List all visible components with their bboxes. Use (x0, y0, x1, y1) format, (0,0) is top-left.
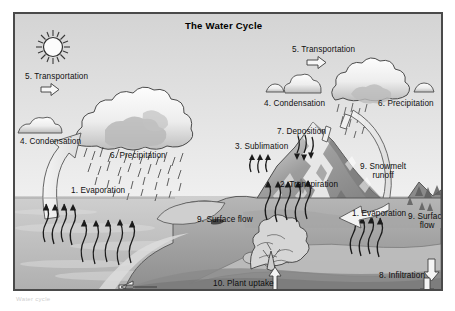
label-transportation-left: 5. Transportation (25, 72, 88, 81)
sublimation-arrowheads (249, 154, 271, 160)
label-transpiration: 2. Transpiration (280, 180, 338, 189)
label-condensation-right: 4. Condensation (264, 99, 325, 108)
label-evaporation-land: 1. Evaporation (352, 209, 406, 218)
page-title: The Water Cycle (185, 20, 262, 31)
label-precipitation-right: 6. Precipitation (378, 99, 434, 108)
label-condensation-left: 4. Condensation (20, 137, 81, 146)
label-precipitation-left: 6. Precipitation (110, 151, 166, 160)
label-evaporation-sea: 1. Evaporation (71, 186, 125, 195)
label-snowmelt-runoff: 9. Snowmelt runoff (360, 162, 406, 180)
sun-icon (36, 30, 70, 64)
label-infiltration: 8. Infiltration (379, 271, 425, 280)
figure-caption: Water cycle (16, 296, 50, 302)
label-plant-uptake: 10. Plant uptake (213, 279, 274, 288)
label-deposition: 7. Deposition (277, 127, 326, 136)
diagram-frame: The Water Cycle 5. Transportation 5. Tra… (13, 12, 443, 291)
label-transportation-right: 5. Transportation (292, 45, 355, 54)
water-cycle-figure: The Water Cycle 5. Transportation 5. Tra… (0, 0, 455, 311)
diagram-artwork (15, 14, 441, 289)
label-surface-flow-left: 9. Surface flow (197, 215, 253, 224)
label-sublimation: 3. Sublimation (235, 142, 288, 151)
label-percolation: 8. Percolation (374, 290, 425, 291)
label-surface-flow-right: 9. Surface flow (408, 212, 443, 230)
